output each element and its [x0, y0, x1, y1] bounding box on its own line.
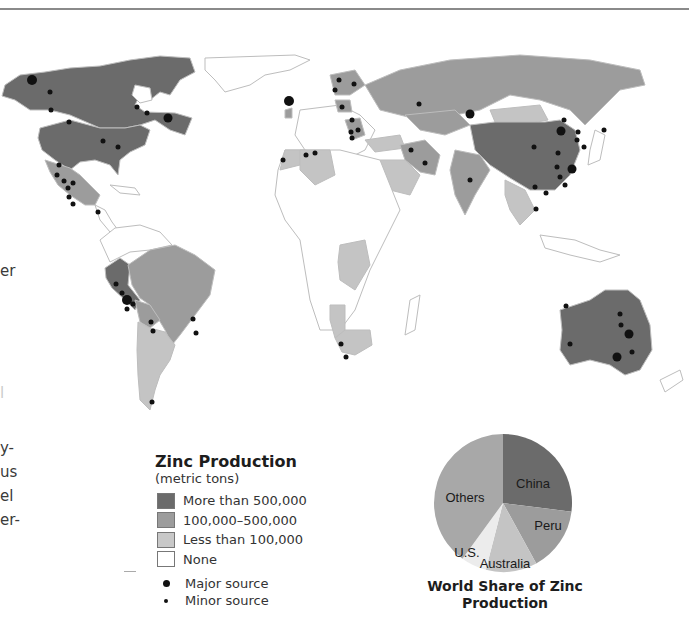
legend-item: More than 500,000: [155, 491, 375, 511]
legend: Zinc Production (metric tons) More than …: [155, 453, 375, 609]
legend-item: 100,000–500,000: [155, 511, 375, 531]
legend-subtitle: (metric tons): [155, 471, 375, 487]
pie-label-others: Others: [445, 490, 485, 505]
region-japan: [588, 130, 605, 165]
minor-source-dot-icon: [164, 599, 168, 603]
region-africa: [275, 150, 400, 330]
legend-label: Major source: [185, 576, 268, 591]
region-indonesia: [540, 235, 620, 262]
pie-label-us: U.S.: [454, 545, 479, 560]
text-fragment: el: [0, 489, 13, 504]
swatch-more-than-500000: [157, 493, 175, 509]
pie-label-peru: Peru: [534, 518, 561, 533]
legend-title: Zinc Production: [155, 453, 375, 471]
legend-label: Less than 100,000: [183, 532, 303, 547]
legend-item: Major source: [155, 575, 375, 592]
pie-label-australia: Australia: [480, 556, 531, 571]
region-greenland: [205, 55, 310, 92]
legend-item: None: [155, 550, 375, 570]
zinc-share-pie-chart: China Peru Australia U.S. Others: [433, 433, 573, 573]
pie-chart-title: World Share of Zinc Production: [420, 578, 590, 612]
region-new-zealand: [660, 370, 683, 392]
legend-label: More than 500,000: [183, 493, 307, 508]
region-australia: [560, 290, 652, 375]
major-source-dot-icon: [163, 580, 170, 587]
top-rule: [0, 8, 689, 10]
text-fragment: us: [0, 465, 17, 480]
region-canada: [2, 56, 195, 135]
legend-item: Minor source: [155, 592, 375, 609]
legend-item: Less than 100,000: [155, 530, 375, 550]
decorative-dash: [124, 571, 136, 572]
legend-label: 100,000–500,000: [183, 513, 297, 528]
pie-slice-china: [503, 434, 572, 512]
region-ireland: [285, 108, 292, 118]
legend-label: Minor source: [185, 593, 269, 608]
swatch-100000-500000: [157, 512, 175, 528]
text-fragment: er-: [0, 513, 20, 528]
pie-label-china: China: [516, 476, 551, 491]
world-map: [0, 20, 689, 420]
region-madagascar: [405, 295, 420, 335]
swatch-none: [157, 551, 175, 567]
text-fragment: y-: [0, 441, 14, 456]
legend-label: None: [183, 552, 217, 567]
swatch-less-than-100000: [157, 532, 175, 548]
